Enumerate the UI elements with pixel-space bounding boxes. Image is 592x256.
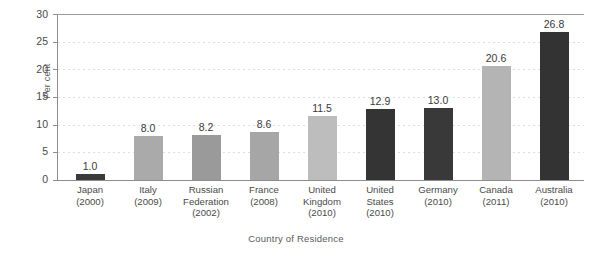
- bar-value-italy: 8.0: [119, 122, 177, 134]
- y-tickmark-25: [53, 42, 57, 43]
- bar-slot-russian-federation[interactable]: 8.2: [177, 14, 235, 180]
- plot-area: 1.0 8.0 8.2 8.6 11.5 12.9 13.0 2: [57, 14, 584, 180]
- y-tickmark-5: [53, 152, 57, 153]
- bar-slot-italy[interactable]: 8.0: [119, 14, 177, 180]
- x-axis-title: Country of Residence: [0, 233, 592, 244]
- bar-slot-canada[interactable]: 20.6: [467, 14, 525, 180]
- x-axis-line: [57, 180, 584, 181]
- bar-slot-japan[interactable]: 1.0: [61, 14, 119, 180]
- y-axis-title: Per cent: [42, 46, 52, 116]
- y-tickmark-15: [53, 97, 57, 98]
- bar-slot-australia[interactable]: 26.8: [525, 14, 583, 180]
- bar-italy[interactable]: [134, 136, 163, 180]
- y-tick-label-5: 5: [22, 146, 48, 156]
- bar-slot-france[interactable]: 8.6: [235, 14, 293, 180]
- y-tickmark-20: [53, 69, 57, 70]
- bar-value-japan: 1.0: [61, 160, 119, 172]
- bar-canada[interactable]: [482, 66, 511, 180]
- bar-slot-united-states[interactable]: 12.9: [351, 14, 409, 180]
- bar-value-australia: 26.8: [525, 18, 583, 30]
- y-tick-label-20: 20: [22, 64, 48, 74]
- y-tickmark-30: [53, 14, 57, 15]
- bar-value-canada: 20.6: [467, 52, 525, 64]
- bar-value-france: 8.6: [235, 118, 293, 130]
- x-tick-year-australia: (2010): [519, 196, 589, 208]
- bar-value-russian-federation: 8.2: [177, 121, 235, 133]
- bar-slot-germany[interactable]: 13.0: [409, 14, 467, 180]
- y-tick-label-25: 25: [22, 36, 48, 46]
- bar-slot-united-kingdom[interactable]: 11.5: [293, 14, 351, 180]
- x-tick-label-australia: Australia (2010): [519, 184, 589, 207]
- y-tick-label-0: 0: [22, 174, 48, 184]
- bar-value-united-kingdom: 11.5: [293, 102, 351, 114]
- y-tick-label-30: 30: [22, 9, 48, 19]
- bar-france[interactable]: [250, 132, 279, 180]
- y-tick-label-10: 10: [22, 119, 48, 129]
- bar-russian-federation[interactable]: [192, 135, 221, 180]
- bar-united-states[interactable]: [366, 109, 395, 180]
- x-tick-country-australia: Australia: [519, 184, 589, 196]
- bar-value-germany: 13.0: [409, 94, 467, 106]
- bar-united-kingdom[interactable]: [308, 116, 337, 180]
- bar-australia[interactable]: [540, 32, 569, 180]
- y-tickmark-10: [53, 125, 57, 126]
- bar-value-united-states: 12.9: [351, 95, 409, 107]
- y-tick-label-15: 15: [22, 91, 48, 101]
- x-tick-year-russian-federation: (2002): [171, 207, 241, 219]
- bar-germany[interactable]: [424, 108, 453, 180]
- bar-chart: Per cent 30 25 20 15 10 5 0 1.0 8.0: [0, 0, 592, 256]
- bar-japan[interactable]: [76, 174, 105, 180]
- y-tickmark-0: [53, 180, 57, 181]
- x-tick-year-united-states: (2010): [345, 207, 415, 219]
